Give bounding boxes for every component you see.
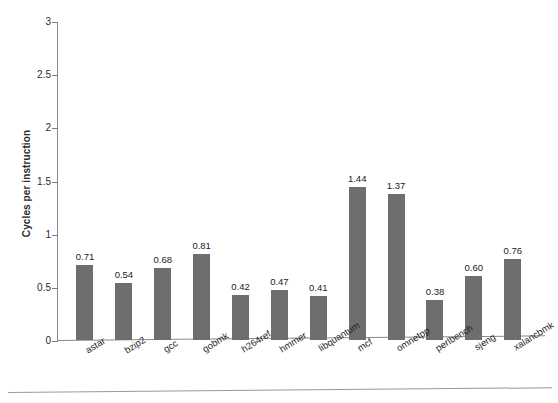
bar-value-label: 0.81 — [192, 240, 211, 251]
bar-group[interactable]: 0.60 — [465, 21, 482, 340]
bar-value-label: 0.76 — [503, 245, 522, 256]
plot-area: 00.511.522.53 0.710.540.680.810.420.470.… — [57, 22, 545, 341]
bar-value-label: 1.37 — [387, 180, 406, 191]
bar[interactable] — [388, 194, 405, 340]
bar-group[interactable]: 0.42 — [232, 21, 249, 340]
bar-value-label: 0.42 — [231, 281, 250, 292]
bar-value-label: 0.68 — [154, 254, 173, 265]
bar-value-label: 0.47 — [270, 276, 289, 287]
bar-group[interactable]: 1.44 — [349, 21, 366, 340]
bar[interactable] — [232, 295, 249, 340]
bar-chart: Cycles per instruction 00.511.522.53 0.7… — [0, 0, 558, 403]
bar[interactable] — [310, 296, 327, 340]
y-tick-label: 0.5 — [23, 282, 51, 293]
bar-group[interactable]: 0.81 — [193, 21, 210, 340]
bar[interactable] — [271, 290, 288, 340]
y-tick-label: 2 — [23, 122, 51, 133]
x-category-label: gcc — [161, 338, 179, 355]
x-axis-category-labels: astarbzip2gccgobmkh264refhmmerlibquantum… — [57, 341, 545, 401]
bar[interactable] — [76, 265, 93, 340]
bar-value-label: 0.41 — [309, 282, 328, 293]
bar-group[interactable]: 0.71 — [76, 21, 93, 340]
bar-value-label: 0.38 — [426, 286, 445, 297]
bar[interactable] — [154, 268, 171, 340]
bar-group[interactable]: 0.76 — [504, 21, 521, 340]
bar[interactable] — [504, 259, 521, 340]
bar-series: 0.710.540.680.810.420.470.411.441.370.38… — [57, 22, 545, 341]
bar-group[interactable]: 1.37 — [388, 21, 405, 340]
bar-group[interactable]: 0.68 — [154, 21, 171, 340]
bar-value-label: 0.54 — [115, 269, 134, 280]
y-tick-label: 3 — [23, 16, 51, 27]
bar[interactable] — [115, 283, 132, 340]
bar[interactable] — [193, 254, 210, 340]
bar-value-label: 0.71 — [76, 251, 95, 262]
bar-group[interactable]: 0.54 — [115, 21, 132, 340]
bar-value-label: 1.44 — [348, 173, 367, 184]
y-tick-label: 0 — [23, 335, 51, 346]
bar-value-label: 0.60 — [465, 262, 484, 273]
y-tick-label: 2.5 — [23, 69, 51, 80]
bar-group[interactable]: 0.47 — [271, 21, 288, 340]
y-tick-label: 1.5 — [23, 176, 51, 187]
y-tick-label: 1 — [23, 229, 51, 240]
bar-group[interactable]: 0.38 — [426, 21, 443, 340]
bar-group[interactable]: 0.41 — [310, 21, 327, 340]
bar[interactable] — [349, 187, 366, 340]
